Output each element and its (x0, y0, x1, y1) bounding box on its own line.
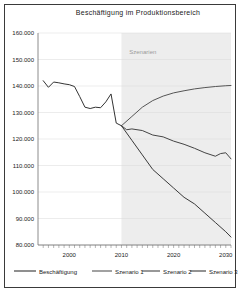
legend-label-1[interactable]: Szenario 1 (115, 269, 144, 275)
chart-legend[interactable]: BeschäftigungSzenario 1Szenario 2Szenari… (14, 269, 238, 275)
chart-canvas: 160.000150.000140.000130.000120.000110.0… (0, 0, 242, 294)
y-tick-label: 130.000 (12, 110, 34, 116)
y-tick-label: 100.000 (12, 189, 34, 195)
legend-label-2[interactable]: Szenario 2 (163, 269, 192, 275)
x-axis-ticks (43, 245, 231, 248)
y-tick-label: 110.000 (13, 163, 35, 169)
chart-annotations: Szenarien (129, 49, 156, 55)
x-tick-label: 2010 (115, 252, 129, 258)
y-tick-label: 120.000 (12, 136, 34, 142)
chart-svg: 160.000150.000140.000130.000120.000110.0… (0, 0, 242, 294)
legend-label-0[interactable]: Beschäftigung (39, 269, 77, 275)
y-tick-label: 90.000 (16, 216, 35, 222)
y-tick-label: 80.000 (16, 242, 35, 248)
x-tick-label: 2000 (63, 252, 77, 258)
legend-label-3[interactable]: Szenario 3 (209, 269, 238, 275)
x-tick-label: 2020 (167, 252, 181, 258)
series-line-0 (43, 81, 121, 126)
annotation-szenarien: Szenarien (129, 49, 156, 55)
y-tick-label: 140.000 (12, 83, 34, 89)
x-axis-tick-labels: 2000201020202030 (63, 252, 233, 258)
x-tick-label: 2030 (219, 252, 233, 258)
y-tick-label: 160.000 (12, 30, 34, 36)
y-axis-tick-labels: 160.000150.000140.000130.000120.000110.0… (12, 30, 34, 248)
y-tick-label: 150.000 (12, 57, 34, 63)
